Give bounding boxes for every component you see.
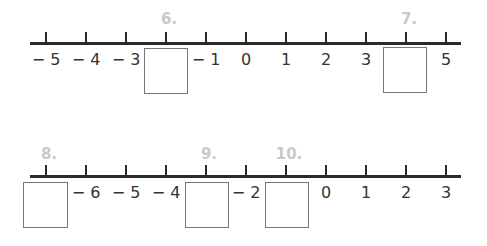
tick-mark (405, 165, 407, 176)
tick-mark (365, 165, 367, 176)
tick-mark (165, 32, 167, 43)
tick-mark (405, 32, 407, 43)
tick-mark (125, 165, 127, 176)
tick-label: − 1 (192, 50, 221, 69)
tick-label: 5 (441, 50, 451, 69)
question-number: 9. (201, 145, 217, 163)
tick-mark (445, 32, 447, 43)
tick-label: − 3 (112, 50, 141, 69)
tick-label: 3 (441, 183, 451, 202)
tick-mark (245, 165, 247, 176)
tick-label: 3 (361, 50, 371, 69)
tick-mark (245, 32, 247, 43)
answer-box-8[interactable] (23, 182, 68, 228)
question-number: 10. (276, 145, 303, 163)
answer-box-7[interactable] (383, 47, 427, 93)
tick-mark (85, 32, 87, 43)
tick-label: 1 (361, 183, 371, 202)
question-number: 8. (41, 145, 57, 163)
tick-mark (285, 32, 287, 43)
answer-box-9[interactable] (185, 182, 229, 228)
tick-mark (45, 165, 47, 176)
tick-mark (45, 32, 47, 43)
tick-label: − 2 (232, 183, 261, 202)
tick-label: 1 (281, 50, 291, 69)
answer-box-10[interactable] (265, 182, 309, 228)
tick-label: 2 (321, 50, 331, 69)
tick-label: − 5 (112, 183, 141, 202)
tick-label: − 6 (72, 183, 101, 202)
answer-box-6[interactable] (144, 48, 188, 94)
tick-label: − 4 (72, 50, 101, 69)
tick-mark (325, 32, 327, 43)
tick-mark (205, 32, 207, 43)
question-number: 6. (161, 10, 177, 28)
tick-mark (365, 32, 367, 43)
tick-label: − 5 (32, 50, 61, 69)
tick-mark (325, 165, 327, 176)
tick-label: 2 (401, 183, 411, 202)
tick-mark (285, 165, 287, 176)
tick-mark (85, 165, 87, 176)
tick-label: 0 (241, 50, 251, 69)
tick-mark (125, 32, 127, 43)
tick-mark (165, 165, 167, 176)
tick-mark (205, 165, 207, 176)
tick-mark (445, 165, 447, 176)
tick-label: − 4 (152, 183, 181, 202)
question-number: 7. (401, 10, 417, 28)
tick-label: 0 (321, 183, 331, 202)
